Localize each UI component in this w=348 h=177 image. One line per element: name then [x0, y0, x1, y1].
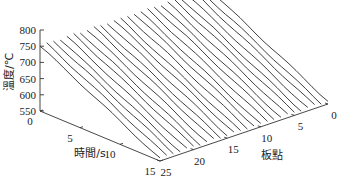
- time-tick-label: 0: [27, 115, 33, 127]
- plate-curve: [107, 24, 227, 136]
- plate-curve: [134, 14, 254, 126]
- z-tick-label: 800: [20, 24, 37, 36]
- time-tick-label: 5: [67, 132, 73, 144]
- plate-curve: [201, 0, 321, 104]
- plate-tick-label: 20: [194, 155, 206, 167]
- plate-curve: [195, 0, 315, 105]
- plate-curve: [67, 36, 187, 148]
- plate-tick-label: 5: [298, 120, 304, 132]
- plate-curve: [161, 6, 281, 118]
- plate-axis-title: 板點: [261, 148, 283, 162]
- z-axis-title: 溫度/℃: [2, 53, 16, 91]
- waterfall-chart: 8007507006506005500510150510152025溫度/℃時間…: [0, 0, 348, 177]
- z-tick-label: 750: [20, 40, 37, 52]
- plate-curve: [127, 16, 247, 129]
- plate-curve: [141, 12, 261, 124]
- plate-tick-label: 15: [228, 143, 240, 155]
- plate-curve: [174, 0, 294, 112]
- plate-curve: [60, 40, 180, 152]
- plate-tick-label: 10: [261, 132, 273, 144]
- plate-tick-label: 0: [331, 109, 337, 121]
- z-tick-label: 700: [20, 56, 37, 68]
- z-tick-label: 650: [20, 73, 37, 85]
- plate-curve: [101, 25, 221, 138]
- time-axis-title: 時間/s: [74, 147, 106, 160]
- plate-curve: [168, 2, 288, 114]
- z-tick-label: 600: [20, 89, 37, 101]
- plate-curve: [181, 0, 301, 111]
- axis-labels: 8007507006506005500510150510152025溫度/℃時間…: [2, 24, 337, 177]
- plate-curve: [121, 18, 241, 131]
- plate-curve: [148, 9, 268, 122]
- temperature-curves: [40, 0, 328, 158]
- plate-curve: [94, 27, 214, 139]
- time-tick-label: 10: [105, 148, 117, 160]
- plate-axis: [160, 104, 328, 161]
- plate-tick-label: 25: [161, 166, 173, 177]
- plate-curve: [188, 0, 308, 107]
- time-tick-label: 15: [145, 165, 157, 177]
- plate-curve: [80, 33, 200, 145]
- plate-curve: [154, 7, 274, 120]
- plate-curve: [74, 33, 194, 146]
